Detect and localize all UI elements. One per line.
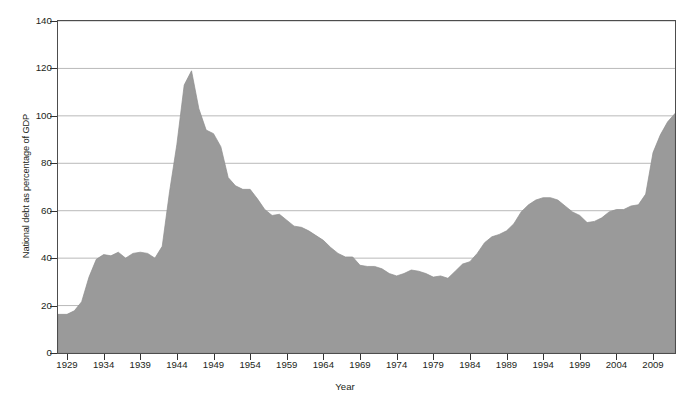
x-tick-mark [104, 354, 105, 360]
x-tick-label: 1994 [523, 360, 563, 370]
x-tick-label: 1964 [303, 360, 343, 370]
x-tick-label: 1939 [120, 360, 160, 370]
x-tick-label: 1989 [487, 360, 527, 370]
x-tick-label: 1929 [47, 360, 87, 370]
y-tick-mark [50, 353, 57, 354]
y-tick-label: 0 [8, 348, 52, 358]
y-tick-label: 60 [8, 206, 52, 216]
x-tick-mark [470, 354, 471, 360]
y-tick-label: 120 [8, 63, 52, 73]
y-tick-label: 80 [8, 158, 52, 168]
y-tick-mark [50, 211, 57, 212]
debt-area-series [58, 21, 675, 353]
chart-figure: National debt as percentage of GDP 02040… [0, 0, 690, 402]
x-tick-mark [543, 354, 544, 360]
y-axis-title: National debt as percentage of GDP [21, 56, 31, 316]
x-tick-mark [140, 354, 141, 360]
x-tick-mark [507, 354, 508, 360]
x-tick-label: 2004 [596, 360, 636, 370]
y-tick-mark [50, 21, 57, 22]
y-tick-label: 40 [8, 253, 52, 263]
x-tick-mark [360, 354, 361, 360]
x-tick-mark [397, 354, 398, 360]
x-tick-label: 1934 [84, 360, 124, 370]
x-tick-label: 1954 [230, 360, 270, 370]
x-tick-label: 1959 [267, 360, 307, 370]
y-tick-mark [50, 116, 57, 117]
x-tick-label: 1944 [157, 360, 197, 370]
y-tick-mark [50, 163, 57, 164]
x-tick-label: 1969 [340, 360, 380, 370]
x-tick-label: 1984 [450, 360, 490, 370]
y-tick-label: 100 [8, 111, 52, 121]
x-tick-mark [323, 354, 324, 360]
y-tick-label: 140 [8, 16, 52, 26]
x-tick-mark [250, 354, 251, 360]
x-tick-label: 1974 [377, 360, 417, 370]
x-tick-label: 2009 [633, 360, 673, 370]
x-axis-title: Year [0, 381, 690, 392]
x-tick-mark [433, 354, 434, 360]
x-tick-mark [287, 354, 288, 360]
plot-area [57, 20, 676, 354]
x-tick-mark [177, 354, 178, 360]
x-tick-mark [580, 354, 581, 360]
y-tick-mark [50, 258, 57, 259]
y-tick-mark [50, 68, 57, 69]
x-tick-label: 1979 [413, 360, 453, 370]
area-fill-path [58, 71, 675, 353]
x-tick-label: 1999 [560, 360, 600, 370]
y-tick-label: 20 [8, 301, 52, 311]
x-tick-mark [67, 354, 68, 360]
x-tick-mark [653, 354, 654, 360]
x-tick-mark [214, 354, 215, 360]
x-tick-label: 1949 [194, 360, 234, 370]
x-tick-mark [616, 354, 617, 360]
y-tick-mark [50, 306, 57, 307]
